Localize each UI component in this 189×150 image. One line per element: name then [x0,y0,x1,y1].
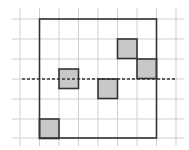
shaded-square [40,119,60,139]
shaded-square [137,59,157,79]
background-grid [12,8,184,146]
grid-diagram [0,0,189,150]
shaded-square [98,79,118,99]
shaded-square [118,39,138,59]
